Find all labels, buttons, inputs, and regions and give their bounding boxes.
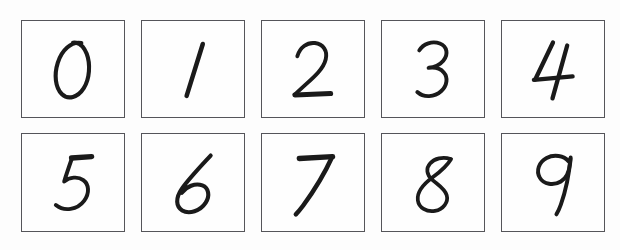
handwritten-nine-glyph <box>502 134 604 231</box>
digit-row-top: 0 1 2 3 4 <box>0 20 605 118</box>
handwritten-four-glyph <box>502 21 604 117</box>
digit-cell-9[interactable]: 9 <box>501 133 605 232</box>
handwritten-five-glyph <box>22 134 124 231</box>
digit-cell-1[interactable]: 1 <box>141 20 245 118</box>
digit-cell-4[interactable]: 4 <box>501 20 605 118</box>
handwritten-three-glyph <box>382 21 484 117</box>
handwritten-six-glyph <box>142 134 244 231</box>
handwritten-eight-glyph <box>382 134 484 231</box>
handwritten-two-glyph <box>262 21 364 117</box>
digit-cell-3[interactable]: 3 <box>381 20 485 118</box>
digit-grid-sheet: 0 1 2 3 4 <box>0 0 620 250</box>
digit-cell-0[interactable]: 0 <box>21 20 125 118</box>
digit-cell-7[interactable]: 7 <box>261 133 365 232</box>
handwritten-seven-glyph <box>262 134 364 231</box>
handwritten-zero-glyph <box>22 21 124 117</box>
digit-cell-5[interactable]: 5 <box>21 133 125 232</box>
digit-row-bottom: 5 6 7 8 9 <box>0 133 605 232</box>
digit-cell-6[interactable]: 6 <box>141 133 245 232</box>
handwritten-one-glyph <box>142 21 244 117</box>
digit-cell-8[interactable]: 8 <box>381 133 485 232</box>
digit-cell-2[interactable]: 2 <box>261 20 365 118</box>
